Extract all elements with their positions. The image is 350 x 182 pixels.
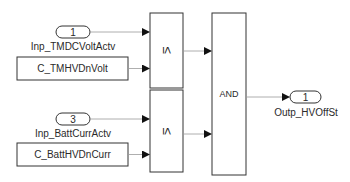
compare-block-1[interactable]: ≤ [150,13,183,88]
constant-2-label: C_BattHVDnCurr [34,149,111,160]
inport-3-label: Inp_BattCurrActv [35,128,111,139]
block-diagram-canvas: 1 Inp_TMDCVoltActv C_TMHVDnVolt ≤ 3 Inp_… [0,0,350,182]
compare-2-operator: ≤ [160,127,175,134]
outport-1-block[interactable]: 1 [290,91,321,103]
and-logic-block[interactable]: AND [212,13,246,175]
inport-1-block[interactable]: 1 [56,26,90,38]
inport-1-number: 1 [70,27,76,38]
inport-1-label: Inp_TMDCVoltActv [31,41,115,52]
signal-lines [90,32,289,155]
outport-1-number: 1 [303,92,309,103]
inport-3-block[interactable]: 3 [56,113,90,125]
constant-2-block[interactable]: C_BattHVDnCurr [17,143,128,166]
compare-1-operator: ≤ [160,46,175,53]
constant-1-label: C_TMHVDnVolt [37,63,108,74]
constant-1-block[interactable]: C_TMHVDnVolt [17,57,128,80]
and-operator-label: AND [219,89,239,99]
inport-3-number: 3 [70,114,76,125]
compare-block-2[interactable]: ≤ [150,90,183,172]
outport-1-label: Outp_HVOffSt [274,107,338,118]
